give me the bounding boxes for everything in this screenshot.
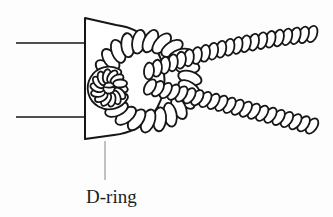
d-ring-illustration: D-ring — [0, 0, 333, 217]
figure-canvas: D-ring — [0, 0, 333, 217]
rope-bight — [143, 62, 154, 80]
figure-caption: D-ring — [86, 186, 137, 207]
rope-bight — [113, 79, 127, 87]
